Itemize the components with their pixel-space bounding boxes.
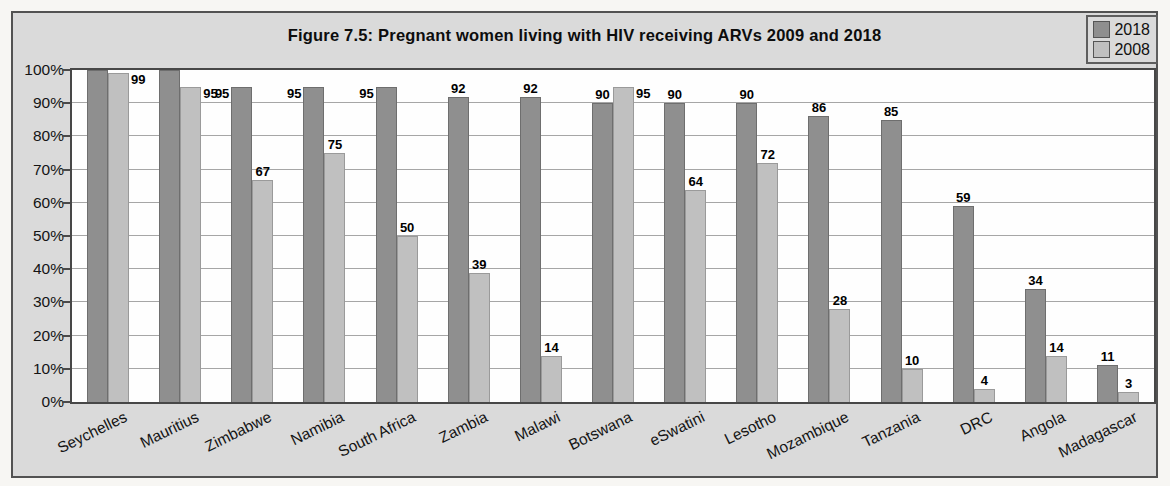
figure-frame: Figure 7.5: Pregnant women living with H… <box>11 11 1158 478</box>
bar-group-mozambique: 8628 <box>793 70 865 402</box>
bar-zimbabwe-2018: 95 <box>231 87 252 402</box>
bar-zambia-2018: 92 <box>448 97 469 402</box>
bar-group-seychelles: 99 <box>72 70 144 402</box>
x-label-mauritius: Mauritius <box>138 408 202 452</box>
bar-namibia-2018: 95 <box>303 87 324 402</box>
bar-south-africa-2008: 50 <box>397 236 418 402</box>
bar-group-namibia: 9575 <box>288 70 360 402</box>
x-label-malawi: Malawi <box>512 408 563 445</box>
y-tickmark <box>62 335 70 337</box>
bar-malawi-2008: 14 <box>541 356 562 402</box>
bar-mozambique-2008: 28 <box>829 309 850 402</box>
scanned-page: { "chart_data": { "type": "bar", "title"… <box>0 0 1170 486</box>
y-tick-80: 80% <box>20 126 64 146</box>
y-tickmark <box>62 135 70 137</box>
value-label-namibia-2018: 95 <box>287 87 301 100</box>
value-label-zimbabwe-2008: 67 <box>256 165 270 178</box>
y-tick-100: 100% <box>20 60 64 80</box>
x-label-botswana: Botswana <box>566 408 635 454</box>
value-label-zambia-2018: 92 <box>451 82 465 95</box>
x-label-wrap: Malawi <box>305 408 555 426</box>
x-label-wrap: Namibia <box>88 408 338 426</box>
bar-mauritius-2018 <box>159 70 180 402</box>
value-label-tanzania-2008: 10 <box>905 354 919 367</box>
legend-entry-2008: 2008 <box>1093 41 1150 58</box>
plot-area: 9995956795759550923992149095906490728628… <box>70 68 1156 404</box>
value-label-botswana-2018: 90 <box>595 88 609 101</box>
x-label-wrap: Angola <box>810 408 1060 426</box>
value-label-south-africa-2008: 50 <box>400 221 414 234</box>
value-label-mozambique-2018: 86 <box>812 101 826 114</box>
bar-zimbabwe-2008: 67 <box>252 180 273 402</box>
value-label-malawi-2018: 92 <box>523 82 537 95</box>
value-label-lesotho-2018: 90 <box>740 88 754 101</box>
bar-mauritius-2008: 95 <box>180 87 201 402</box>
value-label-tanzania-2018: 85 <box>884 105 898 118</box>
value-label-south-africa-2018: 95 <box>359 87 373 100</box>
bar-malawi-2018: 92 <box>520 97 541 402</box>
bar-angola-2018: 34 <box>1025 289 1046 402</box>
bar-group-lesotho: 9072 <box>721 70 793 402</box>
y-tick-60: 60% <box>20 193 64 213</box>
bar-group-eswatini: 9064 <box>649 70 721 402</box>
bar-zambia-2008: 39 <box>469 273 490 402</box>
x-label-wrap: Zambia <box>233 408 483 426</box>
y-tick-10: 10% <box>20 359 64 379</box>
bar-lesotho-2008: 72 <box>757 163 778 402</box>
x-label-lesotho: Lesotho <box>722 408 779 448</box>
x-label-seychelles: Seychelles <box>55 408 130 457</box>
bar-madagascar-2008: 3 <box>1118 392 1139 402</box>
bar-group-zambia: 9239 <box>433 70 505 402</box>
bar-seychelles-2018 <box>87 70 108 402</box>
value-label-zambia-2008: 39 <box>472 258 486 271</box>
value-label-angola-2008: 14 <box>1049 341 1063 354</box>
x-label-zambia: Zambia <box>436 408 490 447</box>
y-tick-50: 50% <box>20 226 64 246</box>
bar-botswana-2008: 95 <box>613 87 634 402</box>
legend-swatch-2008 <box>1093 41 1110 58</box>
value-label-lesotho-2008: 72 <box>761 148 775 161</box>
y-tick-90: 90% <box>20 93 64 113</box>
value-label-mozambique-2008: 28 <box>833 294 847 307</box>
x-label-wrap: Tanzania <box>666 408 916 426</box>
x-label-angola: Angola <box>1016 408 1067 445</box>
bar-mozambique-2018: 86 <box>808 116 829 402</box>
value-label-angola-2018: 34 <box>1028 274 1042 287</box>
bar-tanzania-2008: 10 <box>902 369 923 402</box>
bar-drc-2018: 59 <box>953 206 974 402</box>
bar-lesotho-2018: 90 <box>736 103 757 402</box>
x-label-wrap: Mozambique <box>593 408 843 426</box>
x-label-wrap: Botswana <box>377 408 627 426</box>
value-label-drc-2008: 4 <box>981 374 988 387</box>
y-tick-70: 70% <box>20 160 64 180</box>
bar-south-africa-2018: 95 <box>376 87 397 402</box>
bar-group-south-africa: 9550 <box>361 70 433 402</box>
x-label-wrap: DRC <box>738 408 988 426</box>
bar-angola-2008: 14 <box>1046 356 1067 402</box>
y-tick-0: 0% <box>20 392 64 412</box>
bar-group-botswana: 9095 <box>577 70 649 402</box>
x-label-namibia: Namibia <box>287 408 346 449</box>
value-label-drc-2018: 59 <box>956 191 970 204</box>
y-tickmark <box>62 401 70 403</box>
bar-botswana-2018: 90 <box>592 103 613 402</box>
x-label-wrap: Lesotho <box>521 408 771 426</box>
bar-group-zimbabwe: 9567 <box>216 70 288 402</box>
legend-entry-2018: 2018 <box>1093 21 1150 38</box>
y-tickmark <box>62 169 70 171</box>
bar-group-drc: 594 <box>938 70 1010 402</box>
bar-namibia-2008: 75 <box>324 153 345 402</box>
bar-group-madagascar: 113 <box>1082 70 1154 402</box>
x-label-eswatini: eSwatini <box>646 408 707 450</box>
x-label-south-africa: South Africa <box>335 408 418 461</box>
y-tickmark <box>62 102 70 104</box>
value-label-madagascar-2008: 3 <box>1125 377 1132 390</box>
y-tickmark <box>62 301 70 303</box>
bar-eswatini-2018: 90 <box>664 103 685 402</box>
y-tick-40: 40% <box>20 259 64 279</box>
bar-eswatini-2008: 64 <box>685 190 706 402</box>
value-label-eswatini-2018: 90 <box>667 88 681 101</box>
bar-group-mauritius: 95 <box>144 70 216 402</box>
y-tickmark <box>62 69 70 71</box>
bar-madagascar-2018: 11 <box>1097 365 1118 402</box>
